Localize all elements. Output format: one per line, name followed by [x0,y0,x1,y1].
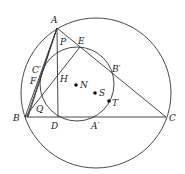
point-n-dot [74,83,78,87]
altitude-ad [57,28,58,117]
point-labels: A B C D E F C′ B′ A′ H P Q N S T [12,15,176,131]
label-d: D [50,121,58,131]
label-n: N [79,80,89,90]
point-s-dot [93,91,97,95]
label-e: E [77,36,85,46]
label-b-prime: B′ [111,64,121,74]
label-b: B [12,113,20,123]
geometry-diagram: A B C D E F C′ B′ A′ H P Q N S T [0,0,185,174]
label-f: F [29,76,37,86]
label-s: S [99,88,105,98]
label-a-prime: A′ [90,121,100,131]
label-c-prime: C′ [32,65,41,75]
label-p: P [59,37,67,47]
label-q: Q [36,104,44,114]
label-a: A [50,15,58,25]
point-t-dot [107,99,111,103]
label-t: T [112,98,119,108]
label-c: C [169,113,176,123]
label-h: H [59,74,68,84]
